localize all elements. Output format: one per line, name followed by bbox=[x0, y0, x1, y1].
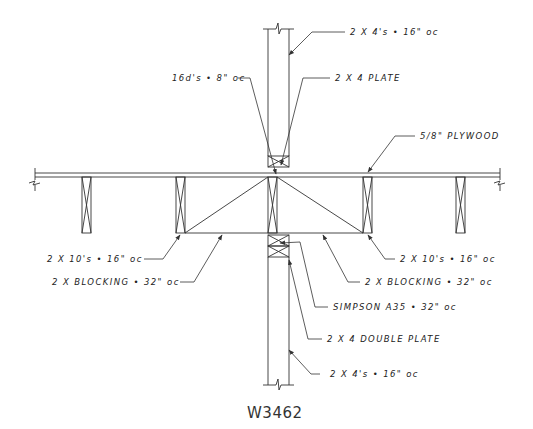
label-blocking-left: 2 X BLOCKING • 32" oc bbox=[52, 277, 180, 287]
upper-wall-studs bbox=[263, 23, 294, 156]
label-blocking-right: 2 X BLOCKING • 32" oc bbox=[365, 277, 493, 287]
label-joists-left: 2 X 10's • 16" oc bbox=[47, 254, 143, 264]
drawing-id: W3462 bbox=[247, 404, 303, 422]
label-studs-bottom: 2 X 4's • 16" oc bbox=[330, 369, 419, 379]
label-simpson: SIMPSON A35 • 32" oc bbox=[333, 302, 457, 312]
framing-section-drawing bbox=[0, 0, 533, 429]
label-double-plate: 2 X 4 DOUBLE PLATE bbox=[327, 334, 441, 344]
label-top-plate: 2 X 4 PLATE bbox=[335, 73, 401, 83]
double-plate bbox=[268, 235, 289, 257]
lower-wall-studs bbox=[263, 257, 294, 390]
label-joists-right: 2 X 10's • 16" oc bbox=[400, 254, 496, 264]
label-studs-top: 2 X 4's • 16" oc bbox=[350, 27, 439, 37]
label-plywood: 5/8" PLYWOOD bbox=[420, 131, 500, 141]
label-nails: 16d's • 8" oc bbox=[172, 73, 246, 83]
plywood-subfloor bbox=[29, 168, 505, 191]
blocking bbox=[185, 177, 363, 233]
floor-joists bbox=[82, 177, 465, 233]
top-plate bbox=[268, 156, 289, 167]
